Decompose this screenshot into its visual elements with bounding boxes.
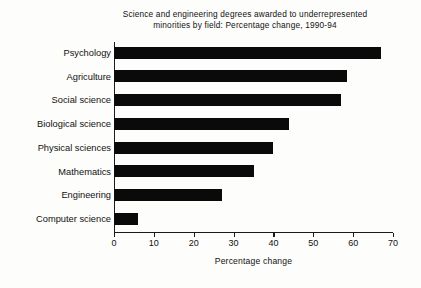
- x-tick-label: 20: [179, 238, 209, 248]
- bar: [114, 213, 138, 225]
- category-label: Agriculture: [3, 72, 111, 83]
- category-label: Social science: [3, 95, 111, 106]
- bar-row: [114, 42, 393, 66]
- plot-area: [114, 42, 393, 232]
- chart-title: Science and engineering degrees awarded …: [95, 9, 395, 31]
- bar-row: [114, 161, 393, 185]
- x-tick-mark: [313, 233, 314, 237]
- category-label: Physical sciences: [3, 143, 111, 154]
- x-tick-label: 50: [298, 238, 328, 248]
- category-label: Psychology: [3, 48, 111, 59]
- x-tick-label: 0: [99, 238, 129, 248]
- x-tick-label: 40: [258, 238, 288, 248]
- bar: [114, 47, 381, 59]
- category-label: Engineering: [3, 190, 111, 201]
- x-tick-mark: [393, 233, 394, 237]
- x-tick-mark: [194, 233, 195, 237]
- category-axis-labels: PsychologyAgricultureSocial scienceBiolo…: [0, 42, 111, 232]
- x-tick-label: 60: [338, 238, 368, 248]
- x-tick-mark: [353, 233, 354, 237]
- x-tick-label: 10: [139, 238, 169, 248]
- bar-row: [114, 137, 393, 161]
- x-tick-mark: [273, 233, 274, 237]
- category-label: Mathematics: [3, 167, 111, 178]
- bar: [114, 189, 222, 201]
- bar-row: [114, 113, 393, 137]
- x-tick-mark: [154, 233, 155, 237]
- bar-row: [114, 66, 393, 90]
- chart-title-line-1: Science and engineering degrees awarded …: [95, 9, 395, 20]
- bar: [114, 94, 341, 106]
- x-tick-label: 30: [219, 238, 249, 248]
- chart-title-line-2: minorities by field: Percentage change, …: [95, 20, 395, 31]
- bar-row: [114, 185, 393, 209]
- bar: [114, 165, 254, 177]
- x-tick-mark: [114, 233, 115, 237]
- chart-figure: Science and engineering degrees awarded …: [0, 0, 421, 288]
- bar: [114, 118, 289, 130]
- bar-row: [114, 90, 393, 114]
- x-axis-title: Percentage change: [114, 256, 393, 266]
- bar: [114, 142, 273, 154]
- category-label: Biological science: [3, 119, 111, 130]
- x-tick-mark: [234, 233, 235, 237]
- x-axis-ticks: 010203040506070: [114, 233, 393, 253]
- bar-row: [114, 208, 393, 232]
- category-label: Computer science: [3, 214, 111, 225]
- x-tick-label: 70: [378, 238, 408, 248]
- bar: [114, 70, 347, 82]
